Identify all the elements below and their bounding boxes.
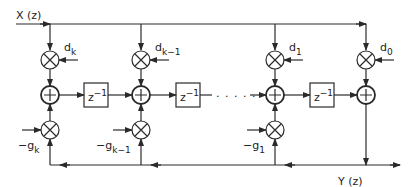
coef-d-1: d1 [289, 42, 302, 53]
coef-d-k: dk [64, 42, 76, 53]
adder-1 [266, 86, 284, 104]
adder-k [41, 86, 59, 104]
multiplier-d-0 [357, 51, 375, 69]
adder-k-1 [132, 86, 150, 104]
coef-g-1: −g1 [243, 140, 265, 151]
multiplier-g-1 [266, 121, 284, 139]
ellipsis: . . . . . [216, 88, 256, 99]
adder-0 [357, 86, 375, 104]
coef-d-0: d0 [380, 42, 393, 53]
multiplier-d-k [41, 51, 59, 69]
lattice-filter-diagram [0, 0, 414, 187]
multiplier-g-k [41, 121, 59, 139]
delay-label-1: z−1 [88, 92, 107, 103]
multiplier-g-k-1 [132, 121, 150, 139]
coef-d-k-1: dk−1 [155, 42, 180, 53]
delay-label-2: z−1 [180, 92, 199, 103]
coef-g-k-1: −gk−1 [96, 140, 131, 151]
output-label: Y (z) [338, 176, 363, 187]
input-label: X (z) [16, 10, 41, 21]
coef-g-k: −gk [18, 140, 39, 151]
delay-label-3: z−1 [314, 92, 333, 103]
multiplier-d-k-1 [132, 51, 150, 69]
multiplier-d-1 [266, 51, 284, 69]
